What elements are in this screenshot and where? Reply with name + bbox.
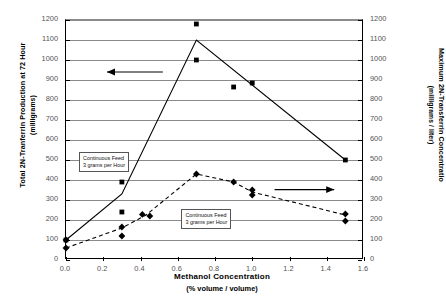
y-tick-left-100: 100 (32, 234, 58, 243)
y-tick-right-0: 0 (370, 254, 396, 263)
arrow-to-right-axis-head (326, 186, 334, 193)
y-tick-left-800: 800 (32, 94, 58, 103)
y-tick-left-600: 600 (32, 134, 58, 143)
y-tick-left-1200: 1200 (32, 14, 58, 23)
y-tick-right-400: 400 (370, 174, 396, 183)
x-axis-title-units: (% volume / volume) (0, 284, 444, 293)
y-tick-right-900: 900 (370, 74, 396, 83)
y-tick-right-800: 800 (370, 94, 396, 103)
y-axis-right-title-main: Maximum 2N-Transferrin Concentratio (436, 25, 446, 205)
y-tick-right-200: 200 (370, 214, 396, 223)
y-tick-right-100: 100 (370, 234, 396, 243)
y-tick-left-200: 200 (32, 214, 58, 223)
y-tick-right-700: 700 (370, 114, 396, 123)
tickmark-right-0 (358, 260, 362, 261)
y-axis-right-title-units: (milligrams / liter) (426, 25, 436, 205)
y-tick-left-0: 0 (32, 254, 58, 263)
y-tick-left-1100: 1100 (32, 34, 58, 43)
y-tick-left-400: 400 (32, 174, 58, 183)
y-tick-right-1100: 1100 (370, 34, 396, 43)
y-axis-left-title-main: Total 2N-Tranferrin Production at 72 Hou… (18, 25, 28, 205)
x-axis-title: Methanol Concentration (0, 272, 444, 281)
y-tick-right-600: 600 (370, 134, 396, 143)
y-tick-left-1000: 1000 (32, 54, 58, 63)
y-tick-left-500: 500 (32, 154, 58, 163)
y-tick-left-900: 900 (32, 74, 58, 83)
y-tick-left-700: 700 (32, 114, 58, 123)
plot-area: Continuous Feed3 grams per HourContinuou… (65, 19, 363, 259)
y-tick-right-1200: 1200 (370, 14, 396, 23)
y-tick-right-500: 500 (370, 154, 396, 163)
tickmark-x-1.6 (364, 257, 365, 261)
arrow-to-right-axis (66, 20, 364, 260)
y-axis-right-title: Maximum 2N-Transferrin Concentratio (mil… (426, 25, 446, 205)
y-tick-right-1000: 1000 (370, 54, 396, 63)
y-tick-left-300: 300 (32, 194, 58, 203)
y-tick-right-300: 300 (370, 194, 396, 203)
